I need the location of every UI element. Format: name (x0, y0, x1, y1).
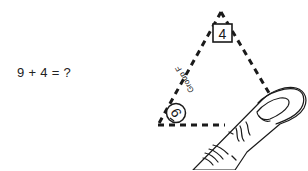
number-triangle-diagram: 4 Group F 9 (0, 0, 308, 170)
bottom-left-vertex: 9 (167, 104, 186, 123)
finger-body (193, 88, 306, 171)
top-vertex: 4 (213, 24, 232, 42)
pointing-finger-icon (193, 88, 306, 171)
top-vertex-value: 4 (219, 26, 227, 42)
